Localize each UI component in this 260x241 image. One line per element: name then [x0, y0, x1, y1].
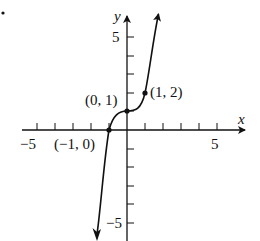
- figure-marker: [1, 11, 4, 14]
- cubic-curve: [97, 14, 158, 232]
- curve-bottom-arrow-icon: [93, 228, 102, 241]
- graph: y x 5 −5 −5 5 (0, 1) (1, 2) (−1, 0): [0, 0, 260, 241]
- y-axis-label: y: [112, 8, 121, 24]
- point-0-1: [124, 108, 129, 113]
- y-tick-label-5: 5: [112, 29, 120, 45]
- point-1-2: [142, 90, 147, 95]
- annotation-neg1-0: (−1, 0): [54, 136, 95, 153]
- x-tick-label-5: 5: [211, 136, 219, 152]
- y-tick-label-neg5: −5: [106, 215, 122, 231]
- x-axis-label: x: [237, 111, 245, 127]
- point-neg1-0: [106, 127, 111, 132]
- annotation-0-1: (0, 1): [85, 92, 118, 109]
- x-tick-label-neg5: −5: [20, 136, 36, 152]
- annotation-1-2: (1, 2): [150, 84, 183, 101]
